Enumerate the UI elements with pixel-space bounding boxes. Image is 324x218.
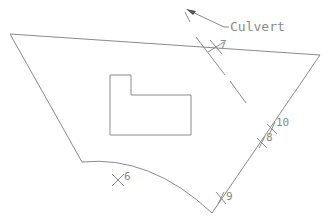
svg-text:9: 9: [226, 190, 233, 203]
culvert-label: Culvert: [230, 19, 285, 34]
culvert-arrow: [186, 9, 229, 27]
site-plan-drawing: Culvert 7 10 8 6 9: [0, 0, 324, 218]
svg-text:7: 7: [220, 38, 227, 51]
svg-text:10: 10: [276, 116, 289, 129]
site-boundary: [10, 34, 320, 213]
point-marker-6: 6: [112, 170, 131, 186]
svg-text:6: 6: [124, 170, 131, 183]
svg-text:8: 8: [266, 131, 273, 144]
point-marker-8: 8: [257, 131, 273, 148]
point-marker-7: 7: [208, 38, 227, 54]
building-outline: [110, 75, 191, 135]
point-marker-9: 9: [216, 190, 233, 204]
